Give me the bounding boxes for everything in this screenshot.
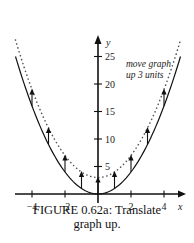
x-axis-arrow-icon: [178, 191, 186, 198]
arrow-head-icon: [161, 89, 166, 95]
arrow-head-icon: [46, 127, 51, 133]
arrow-head-icon: [95, 177, 100, 183]
y-ticks: 510152025: [94, 51, 115, 172]
figure-caption: FIGURE 0.62a: Translate graph up.: [0, 203, 194, 231]
arrow-head-icon: [79, 171, 84, 177]
arrow-head-icon: [29, 89, 34, 95]
y-tick-label: 20: [105, 79, 115, 90]
arrow-head-icon: [62, 155, 67, 161]
y-tick-label: 5: [105, 161, 110, 172]
caption-line-2: graph up.: [0, 217, 194, 231]
annotation-line-1: move graph: [126, 59, 171, 69]
y-tick-label: 10: [105, 134, 115, 145]
y-axis-arrow-icon: [95, 35, 102, 44]
arrow-head-icon: [112, 171, 117, 177]
y-tick-label: 25: [105, 51, 115, 62]
y-tick-label: 15: [105, 106, 115, 117]
annotation-line-2: up 3 units: [126, 70, 164, 80]
y-axis-label: y: [105, 37, 111, 48]
caption-line-1: FIGURE 0.62a: Translate: [0, 203, 194, 217]
